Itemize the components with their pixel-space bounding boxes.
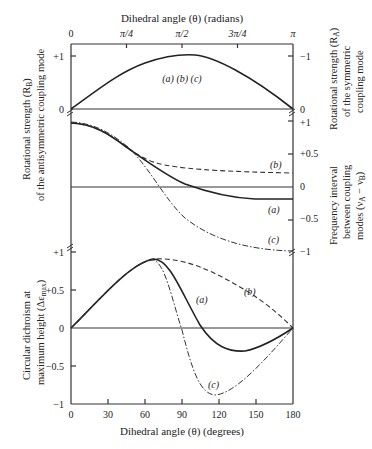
bottom-x-ticks: 0 30 60 90 120 150 180 [69, 409, 301, 420]
svg-text:of the symmetric: of the symmetric [341, 46, 352, 117]
svg-text:(c): (c) [268, 234, 280, 246]
svg-text:3π/4: 3π/4 [228, 28, 247, 39]
top-right-tick-0: 0 [300, 104, 305, 115]
svg-text:+0.5: +0.5 [300, 148, 318, 159]
svg-text:−1: −1 [53, 399, 64, 410]
left-y-label-bottom: Circular dichroism at maximum height (Δε… [21, 279, 48, 385]
svg-text:Circular dichroism at: Circular dichroism at [21, 291, 32, 380]
svg-text:0: 0 [59, 323, 64, 334]
svg-text:π/2: π/2 [176, 28, 189, 39]
top-left-tick-plus1: +1 [53, 51, 64, 62]
svg-text:+1: +1 [300, 117, 311, 128]
svg-text:0: 0 [69, 409, 74, 420]
svg-text:(a): (a) [196, 294, 208, 306]
svg-text:−1: −1 [300, 246, 311, 257]
svg-text:(c): (c) [208, 379, 220, 391]
svg-text:−0.5: −0.5 [300, 213, 318, 224]
figure: Dihedral angle (θ) (radians) 0 π/4 π/2 3… [0, 0, 372, 449]
svg-text:180: 180 [286, 409, 301, 420]
middle-curve-a [71, 123, 293, 199]
svg-text:modes (νA − νB): modes (νA − νB) [354, 171, 367, 240]
top-left-tick-0: 0 [59, 104, 64, 115]
svg-text:coupling mode: coupling mode [354, 50, 365, 113]
svg-text:60: 60 [140, 409, 150, 420]
top-x-axis-title: Dihedral angle (θ) (radians) [121, 12, 244, 25]
middle-panel: +1 +0.5 0 −0.5 −1 (b) (a) (c) [71, 117, 318, 257]
svg-text:of the antisymmetric coupling: of the antisymmetric coupling mode [35, 48, 46, 201]
svg-text:(a): (a) [268, 204, 280, 216]
top-panel: +1 0 −1 0 (a) (b) (c) [53, 51, 310, 115]
svg-text:Rotational strength (RA): Rotational strength (RA) [328, 27, 341, 130]
bottom-x-axis-title: Dihedral angle (θ) (degrees) [120, 425, 244, 438]
svg-text:(b): (b) [270, 159, 282, 171]
svg-text:−0.5: −0.5 [46, 361, 64, 372]
svg-text:between coupling: between coupling [341, 164, 352, 239]
svg-text:Rotational strength (RB): Rotational strength (RB) [21, 78, 34, 180]
plot-frame [71, 44, 293, 404]
svg-text:150: 150 [249, 409, 264, 420]
left-y-label-top: Rotational strength (RB) of the antisymm… [21, 48, 46, 201]
top-annotation: (a) (b) (c) [162, 73, 202, 85]
svg-text:+0.5: +0.5 [46, 285, 64, 296]
svg-text:0: 0 [69, 28, 74, 39]
svg-text:+1: +1 [53, 247, 64, 258]
right-y-label-middle: Frequency interval between coupling mode… [328, 164, 367, 245]
svg-text:90: 90 [177, 409, 187, 420]
svg-text:Frequency interval: Frequency interval [328, 166, 339, 245]
svg-text:(b): (b) [244, 286, 256, 298]
top-x-ticks: 0 π/4 π/2 3π/4 π [69, 28, 297, 39]
svg-text:π/4: π/4 [120, 28, 133, 39]
svg-text:0: 0 [300, 181, 305, 192]
svg-text:120: 120 [212, 409, 227, 420]
bottom-curve-a [71, 259, 293, 351]
svg-text:π: π [290, 28, 296, 39]
top-right-tick-minus1: −1 [300, 51, 311, 62]
svg-text:30: 30 [103, 409, 113, 420]
bottom-panel: +1 +0.5 0 −0.5 −1 (a) (b) (c) [46, 247, 293, 410]
right-y-label-top: Rotational strength (RA) of the symmetri… [328, 27, 365, 130]
